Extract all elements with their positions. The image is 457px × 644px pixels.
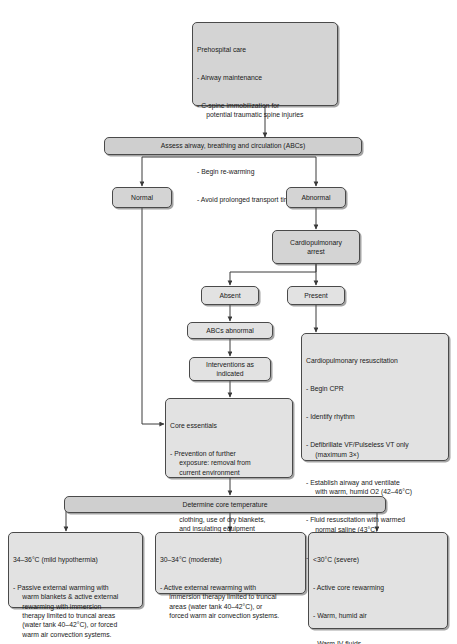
node-item: - Establish airway and ventilate with wa… (306, 478, 444, 497)
node-severe-hypothermia: <30°C (severe) - Active core rewarming -… (308, 532, 448, 629)
node-assess-abcs: Assess airway, breathing and circulation… (104, 137, 362, 155)
node-title: Prehospital care (197, 45, 333, 54)
node-item: - Warm IV fluids (313, 639, 443, 644)
flowchart-canvas: Prehospital care - Airway maintenance - … (0, 0, 457, 644)
node-item: - Passive external warming with warm bla… (13, 583, 138, 639)
node-mild-hypothermia: 34–36°C (mild hypothermia) - Passive ext… (8, 532, 143, 608)
node-title: Core essentials (170, 421, 288, 430)
node-label: Abnormal (301, 193, 330, 202)
node-present: Present (287, 286, 345, 305)
node-normal: Normal (112, 187, 172, 208)
node-title: Cardiopulmonary resuscitation (306, 356, 444, 365)
node-title: 34–36°C (mild hypothermia) (13, 555, 138, 564)
node-label: Assess airway, breathing and circulation… (161, 141, 306, 150)
node-label: Normal (131, 193, 153, 202)
node-absent: Absent (201, 286, 259, 305)
node-determine-core-temperature: Determine core temperature (64, 496, 386, 513)
node-item: - Active core rewarming (313, 583, 443, 592)
node-label: Absent (219, 291, 240, 300)
node-label: ABCs abnormal (206, 326, 254, 335)
node-cardiopulmonary-resuscitation: Cardiopulmonary resuscitation - Begin CP… (301, 333, 449, 461)
node-item: - Warm, humid air (313, 611, 443, 620)
node-item: - Active external rewarming with immersi… (160, 583, 301, 621)
node-item: - Defibrillate VF/Pulseless VT only (max… (306, 440, 444, 459)
node-interventions: Interventions as indicated (189, 357, 271, 381)
node-label: Interventions as indicated (206, 360, 254, 379)
node-item: - Airway maintenance (197, 73, 333, 82)
node-item: - Identify rhythm (306, 412, 444, 421)
node-cardiopulmonary-arrest: Cardiopulmonary arrest (272, 230, 360, 264)
node-core-essentials: Core essentials - Prevention of further … (165, 398, 293, 478)
node-item: - Begin re-warming (197, 167, 333, 176)
node-label: Determine core temperature (183, 500, 268, 509)
node-prehospital-care: Prehospital care - Airway maintenance - … (192, 22, 338, 106)
node-item: - C-spine immobilization for potential t… (197, 101, 333, 120)
node-moderate-hypothermia: 30–34°C (moderate) - Active external rew… (155, 532, 306, 594)
node-title: 30–34°C (moderate) (160, 555, 301, 564)
node-label: Present (304, 291, 327, 300)
node-label: Cardiopulmonary arrest (290, 238, 342, 257)
node-abcs-abnormal: ABCs abnormal (187, 322, 273, 339)
node-abnormal: Abnormal (286, 187, 346, 208)
node-item: - Prevention of further exposure: remova… (170, 449, 288, 477)
node-title: <30°C (severe) (313, 555, 443, 564)
node-item: - Begin CPR (306, 384, 444, 393)
